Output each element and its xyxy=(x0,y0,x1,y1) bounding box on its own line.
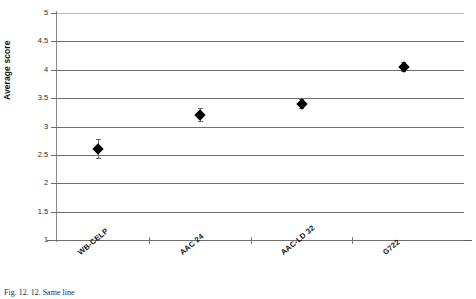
gridline xyxy=(57,41,464,42)
figure-caption: Fig. 12. 12. Same line xyxy=(4,288,74,297)
y-axis-tick-label: 1.5 xyxy=(8,208,48,216)
y-axis-tick-label: 3 xyxy=(8,123,48,131)
y-axis-tick-label: 1 xyxy=(8,236,48,244)
figure-container: Average score 11.522.533.544.55 WB-CELPA… xyxy=(0,0,476,299)
gridline xyxy=(57,212,464,213)
gridline xyxy=(57,13,464,14)
gridline xyxy=(57,240,464,241)
plot-area xyxy=(57,13,464,240)
x-axis-tick-mark xyxy=(352,237,353,244)
x-axis-tick-mark xyxy=(149,237,150,244)
gridline xyxy=(57,127,464,128)
y-axis-tick-label: 4 xyxy=(8,66,48,74)
y-axis-tick-label: 2.5 xyxy=(8,151,48,159)
x-axis-tick-mark xyxy=(251,237,252,244)
y-axis-tick-label: 5 xyxy=(8,9,48,17)
y-axis-tick-label: 2 xyxy=(8,179,48,187)
gridline xyxy=(57,155,464,156)
y-axis-tick-label: 4.5 xyxy=(8,37,48,45)
gridline xyxy=(57,183,464,184)
gridline xyxy=(57,98,464,99)
y-axis-tick-label: 3.5 xyxy=(8,94,48,102)
gridline xyxy=(57,70,464,71)
